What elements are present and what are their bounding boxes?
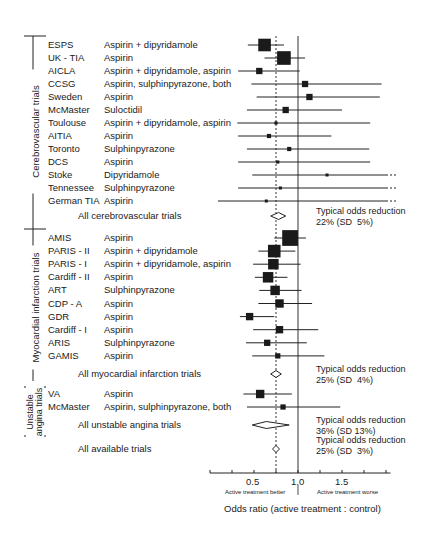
- trial-name: Toulouse: [48, 117, 86, 128]
- active-better-label: Active treatment better: [225, 489, 285, 495]
- trial-name: McMaster: [48, 401, 90, 412]
- trial-name: GAMIS: [48, 350, 79, 361]
- trial-point: [268, 259, 279, 270]
- trial-point: [277, 51, 291, 65]
- group-label-unstable-angina: Unstable angina trials: [26, 381, 44, 443]
- trial-treatment: Aspirin: [104, 130, 133, 141]
- trial-point: [282, 230, 298, 246]
- trial-point: [267, 134, 271, 138]
- trial-name: DCS: [48, 156, 68, 167]
- trial-point: [283, 107, 289, 113]
- trial-name: AMIS: [48, 232, 71, 243]
- trial-treatment: Aspirin + dipyridamole, aspirin: [104, 117, 231, 128]
- overall-summary-label: All available trials: [78, 443, 151, 454]
- trial-point: [256, 68, 262, 74]
- trial-name: Cardiff - I: [48, 324, 87, 335]
- trial-treatment: Aspirin: [104, 156, 133, 167]
- trial-point: [258, 39, 271, 52]
- trial-point: [280, 404, 285, 409]
- trial-treatment: Aspirin, sulphinpyrazone, both: [104, 78, 231, 89]
- trial-treatment: Aspirin: [104, 195, 133, 206]
- trial-treatment: Aspirin + dipyridamole: [104, 39, 198, 50]
- trial-name: CDP - A: [48, 298, 82, 309]
- trial-name: Tennessee: [48, 182, 94, 193]
- trial-name: Sweden: [48, 91, 82, 102]
- trial-treatment: Aspirin: [104, 350, 133, 361]
- x-axis-title: Odds ratio (active treatment : control): [224, 503, 381, 514]
- trial-point: [264, 340, 270, 346]
- trial-point: [263, 272, 274, 283]
- trial-treatment: Aspirin: [104, 91, 133, 102]
- group-summary-label: All cerebrovascular trials: [78, 210, 181, 221]
- trial-treatment: Aspirin + dipyridamole: [104, 245, 198, 256]
- trial-treatment: Sulphinpyrazone: [104, 284, 175, 295]
- trial-name: Cardiff - II: [48, 271, 90, 282]
- active-worse-label: Active treatment worse: [317, 489, 378, 495]
- group-label-myocardial: Myocardial infarction trials: [30, 246, 41, 370]
- trial-treatment: Aspirin: [104, 298, 133, 309]
- trial-treatment: Aspirin: [104, 324, 133, 335]
- trial-name: Toronto: [48, 143, 80, 154]
- trial-point: [270, 286, 279, 295]
- trial-treatment: Suloctidil: [104, 104, 142, 115]
- trial-point: [306, 94, 312, 100]
- odds-reduction-note: Typical odds reduction 25% (SD 4%): [316, 364, 406, 385]
- trial-treatment: Sulphinpyrazone: [104, 143, 175, 154]
- x-tick-0.5: 0.5: [246, 476, 259, 487]
- trial-name: UK - TIA: [48, 52, 84, 63]
- trial-point: [276, 326, 283, 333]
- trial-name: Stoke: [48, 169, 72, 180]
- trial-point: [246, 313, 253, 320]
- trial-treatment: Aspirin, sulphinpyrazone, both: [104, 401, 231, 412]
- group-summary-diamond: [271, 371, 282, 378]
- trial-point: [275, 299, 283, 307]
- trial-point: [265, 200, 268, 203]
- trial-treatment: Aspirin + dipyridamole, aspirin: [104, 65, 231, 76]
- trial-point: [274, 121, 277, 124]
- trial-name: McMaster: [48, 104, 90, 115]
- odds-reduction-note: Typical odds reduction 36% (SD 13%): [316, 415, 406, 436]
- trial-name: German TIA: [48, 195, 100, 206]
- overall-summary-diamond: [272, 446, 279, 453]
- trial-name: AITIA: [48, 130, 72, 141]
- trial-name: CCSG: [48, 78, 75, 89]
- trial-treatment: Aspirin: [104, 52, 133, 63]
- trial-name: GDR: [48, 311, 69, 322]
- trial-point: [287, 147, 291, 151]
- trial-point: [326, 174, 329, 177]
- trial-point: [256, 390, 264, 398]
- group-summary-label: All unstable angina trials: [78, 419, 181, 430]
- group-summary-label: All myocardial infarction trials: [78, 368, 201, 379]
- trial-name: ESPS: [48, 39, 73, 50]
- trial-treatment: Aspirin + dipyridamole, aspirin: [104, 258, 231, 269]
- group-summary-diamond: [271, 213, 286, 220]
- trial-name: PARIS - I: [48, 258, 87, 269]
- trial-name: PARIS - II: [48, 245, 90, 256]
- x-tick-1.0: 1.0: [291, 476, 304, 487]
- overall-odds-reduction-note: Typical odds reduction 25% (SD 3%): [316, 435, 406, 456]
- trial-name: VA: [48, 388, 60, 399]
- trial-treatment: Dipyridamole: [104, 169, 159, 180]
- trial-point: [268, 245, 281, 258]
- group-summary-diamond: [252, 422, 289, 429]
- trial-treatment: Aspirin: [104, 232, 133, 243]
- trial-treatment: Sulphinpyrazone: [104, 182, 175, 193]
- group-label-cerebrovascular: Cerebrovascular trials: [30, 70, 41, 194]
- trial-treatment: Aspirin: [104, 388, 133, 399]
- trial-treatment: Aspirin: [104, 311, 133, 322]
- trial-treatment: Sulphinpyrazone: [104, 337, 175, 348]
- trial-treatment: Aspirin: [104, 271, 133, 282]
- trial-name: ARIS: [48, 337, 70, 348]
- odds-reduction-note: Typical odds reduction 22% (SD 5%): [316, 206, 406, 227]
- trial-point: [276, 160, 279, 163]
- trial-point: [279, 187, 282, 190]
- x-tick-1.5: 1.5: [335, 476, 348, 487]
- trial-point: [302, 81, 308, 87]
- trial-name: ART: [48, 284, 67, 295]
- trial-name: AICLA: [48, 65, 75, 76]
- trial-point: [275, 353, 280, 358]
